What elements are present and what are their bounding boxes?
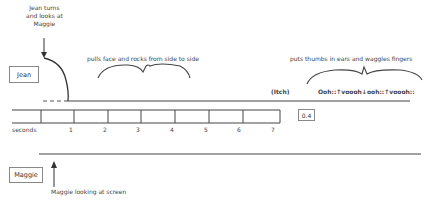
participant-label: Maggie [14,171,38,179]
jean-turns-annotation: Jean turns and looks at Maggie [26,4,63,28]
tick-3: 3 [136,126,140,133]
participant-maggie: Maggie [9,167,43,183]
annotation-line: Jean turns [26,4,63,12]
vocal-transcription: Ooh::↑voooh↓ooh::↑voooh:: [318,88,415,95]
pause-duration-box: 0.4 [298,109,315,121]
tick-5: 5 [204,126,208,133]
tick-1: 1 [69,126,73,133]
diagram-lines [0,0,434,204]
annotation-line: Maggie [26,20,63,28]
itch-annotation: (Itch) [271,88,289,95]
pause-value: 0.4 [302,112,312,119]
tick-4: 4 [170,126,174,133]
annotation-line: and looks at [26,12,63,20]
participant-jean: Jean [9,66,39,83]
tick-7: 7 [271,126,275,133]
pulls-face-annotation: pulls face and rocks from side to side [87,55,199,62]
thumbs-ears-annotation: puts thumbs in ears and waggles fingers [290,55,412,62]
tick-2: 2 [103,126,107,133]
tick-6: 6 [237,126,241,133]
seconds-label: seconds [12,126,37,133]
participant-label: Jean [17,71,31,79]
maggie-looking-annotation: Maggie looking at screen [51,188,126,195]
